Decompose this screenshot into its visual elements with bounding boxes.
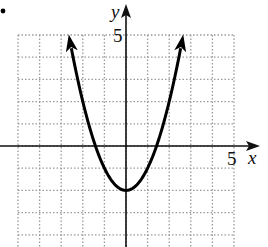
y-tick-label-5: 5	[113, 25, 123, 46]
x-axis-label: x	[247, 147, 257, 168]
parabola-graph: y 5 5 x	[0, 0, 268, 247]
x-tick-label-5: 5	[227, 148, 237, 169]
bullet-icon	[1, 9, 6, 14]
y-axis-label: y	[109, 1, 120, 22]
